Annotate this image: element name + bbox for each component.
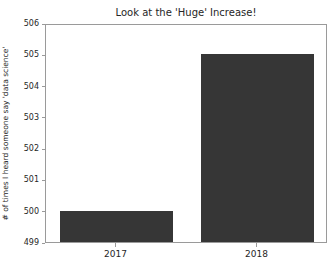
- y-tick-label: 499: [24, 237, 39, 249]
- x-tick-label: 2018: [227, 248, 287, 261]
- bar-chart-figure: Look at the 'Huge' Increase! # of times …: [0, 0, 336, 266]
- x-tick-mark: [115, 243, 116, 247]
- y-tick-label: 503: [24, 112, 39, 124]
- y-tick-label: 505: [24, 49, 39, 61]
- chart-title: Look at the 'Huge' Increase!: [45, 6, 327, 20]
- bar-2017: [60, 211, 173, 242]
- y-tick-label: 502: [24, 143, 39, 155]
- plot-area: [45, 24, 327, 243]
- y-tick-label: 500: [24, 206, 39, 218]
- bar-2018: [201, 54, 314, 242]
- y-tick-label: 501: [24, 174, 39, 186]
- x-tick-label: 2017: [86, 248, 146, 261]
- x-axis-tick-group: 20172018: [45, 243, 327, 266]
- y-axis-tick-group: 499500501502503504505506: [0, 24, 45, 243]
- y-tick-label: 506: [24, 18, 39, 30]
- x-tick-mark: [256, 243, 257, 247]
- y-tick-label: 504: [24, 81, 39, 93]
